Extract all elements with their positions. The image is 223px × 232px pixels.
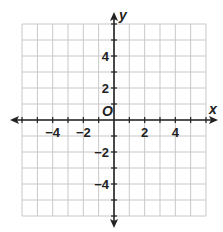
origin-label: O bbox=[102, 103, 113, 119]
x-tick-label: 4 bbox=[172, 125, 180, 140]
x-axis-label: x bbox=[208, 101, 218, 117]
y-tick-label: 4 bbox=[102, 49, 110, 64]
x-tick-label: 2 bbox=[141, 125, 148, 140]
axes bbox=[10, 12, 218, 228]
y-tick-label: −2 bbox=[94, 145, 109, 160]
y-axis-label: y bbox=[118, 7, 128, 23]
x-tick-label: −2 bbox=[76, 125, 91, 140]
y-tick-label: −4 bbox=[94, 177, 110, 192]
y-tick-label: 2 bbox=[102, 81, 109, 96]
coordinate-plane: −4−22442−2−4 x y O bbox=[0, 0, 223, 232]
x-tick-label: −4 bbox=[45, 125, 61, 140]
